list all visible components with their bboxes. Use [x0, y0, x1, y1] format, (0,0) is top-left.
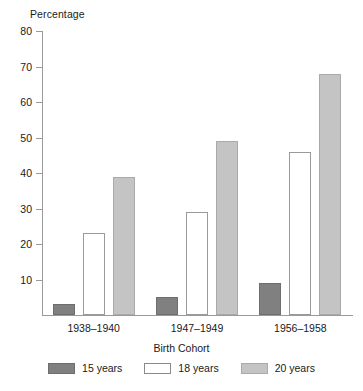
x-axis-line: [42, 315, 353, 316]
bar-20-years-1947–1949: [216, 141, 238, 315]
bar-chart: Percentage 1020304050607080 1938–1940194…: [0, 0, 363, 391]
legend-item-20-years: 20 years: [241, 362, 315, 374]
bar-18-years-1938–1940: [83, 233, 105, 315]
x-tick-label: 1938–1940: [49, 322, 139, 334]
bar-20-years-1938–1940: [113, 177, 135, 315]
y-tick-label: 20: [8, 239, 32, 250]
legend-item-15-years: 15 years: [48, 362, 122, 374]
y-tick-label: 40: [8, 168, 32, 179]
y-tick-label: 70: [8, 62, 32, 73]
bar-20-years-1956–1958: [319, 74, 341, 315]
legend-swatch-icon: [241, 363, 268, 374]
y-tick-label: 60: [8, 97, 32, 108]
x-axis-title: Birth Cohort: [0, 342, 363, 354]
y-tick-label: 50: [8, 133, 32, 144]
chart-legend: 15 years18 years20 years: [0, 362, 363, 374]
legend-label: 15 years: [82, 362, 122, 374]
legend-label: 18 years: [178, 362, 218, 374]
x-tick-label: 1956–1958: [255, 322, 345, 334]
bar-18-years-1947–1949: [186, 212, 208, 315]
y-axis-title: Percentage: [30, 8, 85, 20]
bar-15-years-1947–1949: [156, 297, 178, 315]
legend-item-18-years: 18 years: [144, 362, 218, 374]
legend-label: 20 years: [275, 362, 315, 374]
legend-swatch-icon: [144, 363, 171, 374]
x-tick-label: 1947–1949: [152, 322, 242, 334]
y-tick-label: 30: [8, 204, 32, 215]
bar-15-years-1938–1940: [53, 304, 75, 315]
bar-18-years-1956–1958: [289, 152, 311, 315]
y-tick-label: 10: [8, 275, 32, 286]
y-tick-label: 80: [8, 26, 32, 37]
plot-area: [42, 31, 352, 315]
bar-15-years-1956–1958: [259, 283, 281, 315]
legend-swatch-icon: [48, 363, 75, 374]
